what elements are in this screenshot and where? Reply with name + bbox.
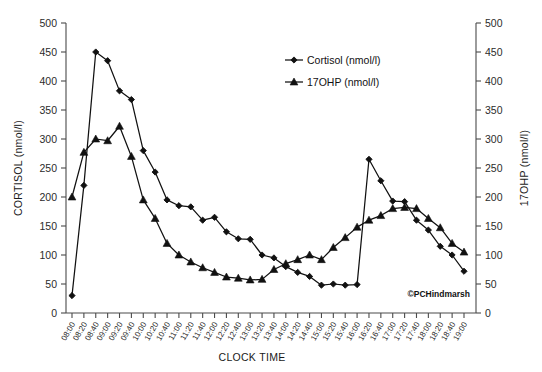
data-point (366, 156, 372, 162)
y-axis-left-tick-label: 50 (45, 278, 57, 290)
y-axis-right-tick-label: 100 (485, 249, 503, 261)
data-point (69, 293, 75, 299)
data-point (92, 135, 100, 142)
y-axis-left-tick-label: 0 (51, 307, 57, 319)
y-axis-right-tick-label: 500 (485, 17, 503, 29)
data-point (199, 264, 207, 271)
data-point (330, 281, 336, 287)
y-axis-left-title: CORTISOL (nmol/l) (12, 120, 24, 216)
data-point (377, 212, 385, 219)
data-point (176, 203, 182, 209)
y-axis-left-tick-label: 350 (39, 104, 57, 116)
legend-label: 17OHP (nmol/l) (307, 76, 379, 88)
data-point (127, 152, 135, 159)
legend-marker-diamond (291, 57, 297, 63)
y-axis-left-tick-label: 400 (39, 75, 57, 87)
data-point (354, 281, 360, 287)
data-point (235, 236, 241, 242)
y-axis-right-tick-label: 450 (485, 46, 503, 58)
y-axis-left-tick-label: 200 (39, 191, 57, 203)
data-point (306, 251, 314, 258)
y-axis-left-tick-label: 250 (39, 162, 57, 174)
y-axis-right-tick-label: 0 (485, 307, 491, 319)
y-axis-right-tick-label: 400 (485, 75, 503, 87)
legend-label: Cortisol (nmol/l) (307, 54, 381, 66)
data-point (378, 178, 384, 184)
data-point (295, 269, 301, 275)
data-point (116, 122, 124, 129)
y-axis-right-tick-label: 300 (485, 133, 503, 145)
data-point (139, 196, 147, 203)
legend: Cortisol (nmol/l)17OHP (nmol/l) (285, 54, 381, 88)
data-point (140, 148, 146, 154)
data-point (152, 169, 158, 175)
y-axis-right-tick-label: 50 (485, 278, 497, 290)
data-point (436, 224, 444, 231)
data-point (270, 266, 278, 273)
y-axis-left-tick-label: 100 (39, 249, 57, 261)
chart-canvas: 0501001502002503003504004505000501001502… (0, 0, 542, 372)
data-point (164, 197, 170, 203)
data-point (163, 239, 171, 246)
y-axis-left-tick-label: 300 (39, 133, 57, 145)
copyright-watermark: ©PCHindmarsh (408, 289, 470, 299)
series-line (72, 52, 464, 296)
data-point (68, 193, 76, 200)
data-point (460, 248, 468, 255)
y-axis-left-tick-label: 150 (39, 220, 57, 232)
data-point (390, 198, 396, 204)
y-axis-right-tick-label: 200 (485, 191, 503, 203)
data-point (151, 214, 159, 221)
x-axis-title: CLOCK TIME (219, 351, 286, 363)
y-axis-right-title: 17OHP (nmol/l) (518, 130, 530, 206)
series-cortisol (69, 49, 467, 299)
y-axis-left-tick-label: 450 (39, 46, 57, 58)
data-point (353, 223, 361, 230)
chart-figure: 0501001502002503003504004505000501001502… (0, 0, 542, 372)
data-point (187, 258, 195, 265)
y-axis-right-tick-label: 250 (485, 162, 503, 174)
y-axis-right-tick-label: 150 (485, 220, 503, 232)
data-point (81, 182, 87, 188)
y-axis-right-tick-label: 350 (485, 104, 503, 116)
series-17ohp (68, 122, 468, 283)
y-axis-left-tick-label: 500 (39, 17, 57, 29)
data-point (342, 282, 348, 288)
